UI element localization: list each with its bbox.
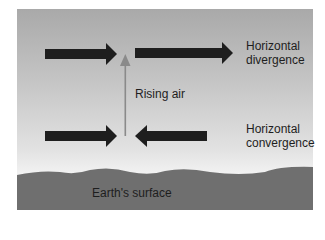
divergence-arrow-left xyxy=(45,43,117,65)
divergence-label: Horizontal divergence xyxy=(246,39,305,67)
convergence-arrow-left xyxy=(45,125,117,147)
earth-surface-label: Earth's surface xyxy=(92,186,172,200)
rising-air-arrow xyxy=(120,54,131,136)
divergence-arrow-right xyxy=(135,42,233,64)
convergence-arrow-right xyxy=(135,125,207,147)
rising-air-label: Rising air xyxy=(135,87,185,101)
convergence-label: Horizontal convergence xyxy=(246,122,315,150)
